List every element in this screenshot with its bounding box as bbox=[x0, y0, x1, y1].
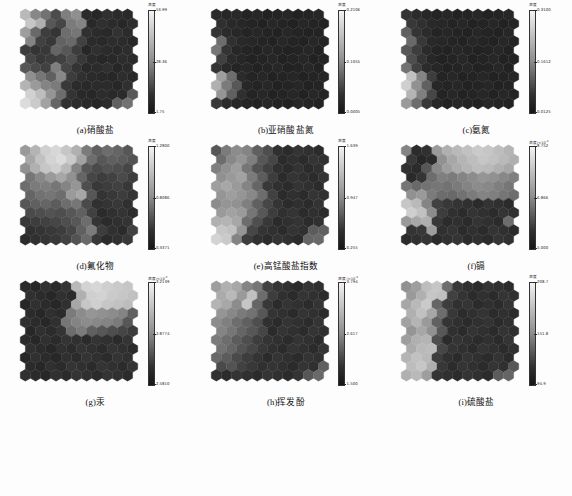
hexagonal-som-map bbox=[209, 136, 331, 254]
panel-body: 浓度1.28000.80860.3371 bbox=[0, 136, 191, 258]
panel-row: 浓度1.28000.80860.3371 (d)氟化物 浓度1.6390.947… bbox=[0, 136, 572, 272]
colorbar: 浓度/×10-38.7526.8665.000 bbox=[528, 140, 572, 258]
hexagonal-som-map bbox=[399, 136, 521, 254]
panel-body: 浓度/×10-53.21392.87742.5810 bbox=[0, 272, 191, 394]
panel-caption: (g)汞 bbox=[86, 397, 105, 408]
panel-caption: (h)挥发酚 bbox=[267, 397, 305, 408]
panel-body: 浓度1.6390.9470.255 bbox=[191, 136, 382, 258]
map-wrap bbox=[399, 136, 515, 254]
colorbar-title: 浓度 bbox=[148, 139, 156, 143]
panel-caption-index: (e) bbox=[254, 261, 264, 271]
colorbar-tick-max: 8.752 bbox=[537, 144, 548, 148]
colorbar-title: 浓度 bbox=[148, 3, 156, 7]
colorbar-tick-max: 3.794 bbox=[346, 280, 357, 284]
panel-a: 浓度53.9928.361.75 (a)硝酸盐 bbox=[0, 0, 191, 136]
colorbar-tick-mid: 0.1055 bbox=[346, 60, 360, 64]
colorbar: 浓度0.31000.16120.0125 bbox=[528, 4, 572, 122]
map-wrap bbox=[399, 0, 515, 118]
panel-d: 浓度1.28000.80860.3371 (d)氟化物 bbox=[0, 136, 191, 272]
colorbar: 浓度1.6390.9470.255 bbox=[337, 140, 381, 258]
panel-i: 浓度208.7151.894.9 (i)硫酸盐 bbox=[381, 272, 572, 408]
panel-caption-text: 硝酸盐 bbox=[87, 125, 114, 135]
map-wrap bbox=[209, 0, 325, 118]
panel-c: 浓度0.31000.16120.0125 (c)氨氮 bbox=[381, 0, 572, 136]
panel-body: 浓度/×10-38.7526.8665.000 bbox=[381, 136, 572, 258]
panel-caption-index: (i) bbox=[459, 397, 467, 407]
hexagonal-som-map bbox=[209, 0, 331, 118]
colorbar-tick-max: 0.3100 bbox=[537, 8, 551, 12]
hexagonal-som-map bbox=[399, 272, 521, 390]
panel-caption-text: 镉 bbox=[476, 261, 485, 271]
panel-caption-index: (g) bbox=[86, 397, 96, 407]
panel-caption: (e)高锰酸盐指数 bbox=[254, 261, 318, 272]
colorbar-tick-mid: 0.8086 bbox=[156, 196, 170, 200]
panel-caption-text: 高锰酸盐指数 bbox=[264, 261, 319, 271]
figure-root: 浓度53.9928.361.75 (a)硝酸盐 浓度0.21060.10550.… bbox=[0, 0, 572, 496]
colorbar-tick-mid: 6.866 bbox=[537, 196, 548, 200]
panel-grid: 浓度53.9928.361.75 (a)硝酸盐 浓度0.21060.10550.… bbox=[0, 0, 572, 408]
colorbar-tick-min: 0.255 bbox=[346, 246, 357, 250]
colorbar-tick-mid: 2.617 bbox=[346, 332, 357, 336]
panel-row: 浓度/×10-53.21392.87742.5810 (g)汞 浓度/×10-3… bbox=[0, 272, 572, 408]
panel-caption: (f)镉 bbox=[467, 261, 485, 272]
panel-g: 浓度/×10-53.21392.87742.5810 (g)汞 bbox=[0, 272, 191, 408]
panel-body: 浓度/×10-33.7942.6171.500 bbox=[191, 272, 382, 394]
colorbar-tick-max: 208.7 bbox=[537, 280, 548, 284]
hexagonal-som-map bbox=[209, 272, 331, 390]
colorbar-tick-min: 0.3371 bbox=[156, 246, 170, 250]
panel-body: 浓度0.31000.16120.0125 bbox=[381, 0, 572, 122]
panel-caption-text: 氟化物 bbox=[87, 261, 114, 271]
colorbar: 浓度208.7151.894.9 bbox=[528, 276, 572, 394]
panel-row: 浓度53.9928.361.75 (a)硝酸盐 浓度0.21060.10550.… bbox=[0, 0, 572, 136]
panel-caption-text: 硫酸盐 bbox=[467, 397, 494, 407]
colorbar-tick-max: 53.99 bbox=[156, 8, 167, 12]
colorbar-tick-mid: 151.8 bbox=[537, 332, 548, 336]
panel-caption-index: (b) bbox=[258, 125, 268, 135]
map-wrap bbox=[399, 272, 515, 390]
colorbar-tick-mid: 2.8774 bbox=[156, 332, 170, 336]
panel-caption-index: (a) bbox=[77, 125, 87, 135]
colorbar: 浓度/×10-53.21392.87742.5810 bbox=[147, 276, 191, 394]
panel-caption: (i)硫酸盐 bbox=[459, 397, 495, 408]
colorbar-tick-min: 1.500 bbox=[346, 382, 357, 386]
colorbar-tick-min: 2.5810 bbox=[156, 382, 170, 386]
colorbar-tick-min: 0.0125 bbox=[537, 110, 551, 114]
hexagonal-som-map bbox=[399, 0, 521, 118]
panel-caption: (c)氨氮 bbox=[462, 125, 490, 136]
panel-f: 浓度/×10-38.7526.8665.000 (f)镉 bbox=[381, 136, 572, 272]
panel-caption: (d)氟化物 bbox=[76, 261, 114, 272]
colorbar-tick-max: 3.2139 bbox=[156, 280, 170, 284]
colorbar: 浓度53.9928.361.75 bbox=[147, 4, 191, 122]
panel-caption-text: 亚硝酸盐氮 bbox=[268, 125, 314, 135]
colorbar-tick-mid: 0.1612 bbox=[537, 60, 551, 64]
map-wrap bbox=[18, 0, 134, 118]
colorbar-tick-min: 94.9 bbox=[537, 382, 546, 386]
panel-caption-text: 氨氮 bbox=[472, 125, 490, 135]
colorbar-tick-min: 0.0005 bbox=[346, 110, 360, 114]
colorbar-tick-max: 1.639 bbox=[346, 144, 357, 148]
panel-caption-index: (d) bbox=[76, 261, 86, 271]
colorbar-tick-mid: 28.36 bbox=[156, 60, 167, 64]
colorbar: 浓度/×10-33.7942.6171.500 bbox=[337, 276, 381, 394]
map-wrap bbox=[209, 272, 325, 390]
colorbar-title: 浓度 bbox=[529, 275, 537, 279]
panel-caption-index: (h) bbox=[267, 397, 277, 407]
colorbar-title: 浓度 bbox=[338, 139, 346, 143]
panel-h: 浓度/×10-33.7942.6171.500 (h)挥发酚 bbox=[191, 272, 382, 408]
panel-body: 浓度53.9928.361.75 bbox=[0, 0, 191, 122]
panel-b: 浓度0.21060.10550.0005 (b)亚硝酸盐氮 bbox=[191, 0, 382, 136]
hexagonal-som-map bbox=[18, 272, 140, 390]
panel-e: 浓度1.6390.9470.255 (e)高锰酸盐指数 bbox=[191, 136, 382, 272]
colorbar-tick-max: 0.2106 bbox=[346, 8, 360, 12]
colorbar: 浓度1.28000.80860.3371 bbox=[147, 140, 191, 258]
hexagonal-som-map bbox=[18, 0, 140, 118]
panel-caption: (b)亚硝酸盐氮 bbox=[258, 125, 314, 136]
panel-caption-text: 挥发酚 bbox=[277, 397, 304, 407]
panel-caption-index: (c) bbox=[462, 125, 472, 135]
colorbar-tick-min: 1.75 bbox=[156, 110, 165, 114]
colorbar-tick-mid: 0.947 bbox=[346, 196, 357, 200]
map-wrap bbox=[18, 272, 134, 390]
colorbar: 浓度0.21060.10550.0005 bbox=[337, 4, 381, 122]
hexagonal-som-map bbox=[18, 136, 140, 254]
map-wrap bbox=[18, 136, 134, 254]
